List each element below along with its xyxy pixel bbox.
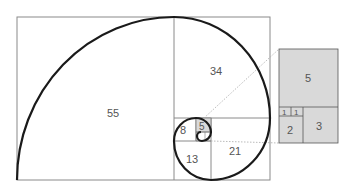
label-55: 55 bbox=[107, 107, 119, 119]
fibonacci-spiral-diagram: 55 34 21 13 8 5 5 3 2 1 1 bbox=[0, 0, 351, 195]
label-5: 5 bbox=[199, 121, 205, 132]
label-8: 8 bbox=[180, 124, 186, 136]
inset-label-1b: 1 bbox=[294, 108, 299, 117]
label-34: 34 bbox=[210, 65, 222, 77]
inset-label-3: 3 bbox=[316, 120, 322, 132]
inset-label-5: 5 bbox=[305, 72, 311, 84]
inset-label-1a: 1 bbox=[282, 108, 287, 117]
label-21: 21 bbox=[229, 145, 241, 157]
inset-label-2: 2 bbox=[287, 124, 293, 136]
magnified-inset: 5 3 2 1 1 bbox=[279, 49, 338, 143]
label-13: 13 bbox=[186, 153, 198, 165]
